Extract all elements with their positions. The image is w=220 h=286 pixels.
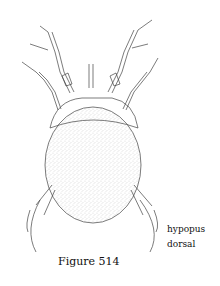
label-dorsal: dorsal [167,238,195,250]
label-hypopus: hypopus [167,223,205,235]
figure-caption: Figure 514 [58,255,120,268]
